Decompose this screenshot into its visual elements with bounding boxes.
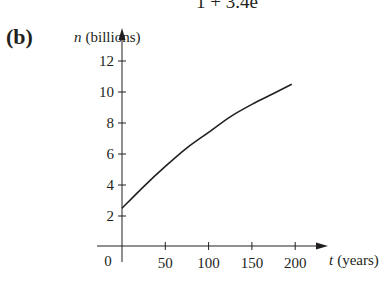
- y-axis-label: n(billions): [74, 29, 141, 46]
- x-axis-label: t(years): [329, 252, 379, 269]
- x-tick-label: 100: [197, 255, 220, 271]
- y-tick-label: 6: [107, 146, 115, 162]
- y-tick-label: 10: [99, 84, 114, 100]
- y-tick-label: 8: [107, 115, 115, 131]
- y-tick-label: 2: [107, 208, 115, 224]
- y-tick-label: 4: [107, 177, 115, 193]
- x-tick-label: 150: [241, 255, 264, 271]
- x-tick-label: 50: [158, 255, 173, 271]
- x-tick-label: 200: [284, 255, 307, 271]
- data-line: [122, 84, 292, 208]
- axes: [97, 28, 328, 262]
- y-tick-label: 12: [99, 53, 114, 69]
- origin-label: 0: [104, 253, 112, 269]
- chart: 24681012 50100150200 0 n(billions) t(yea…: [0, 0, 389, 281]
- x-axis-arrow-icon: [316, 243, 328, 250]
